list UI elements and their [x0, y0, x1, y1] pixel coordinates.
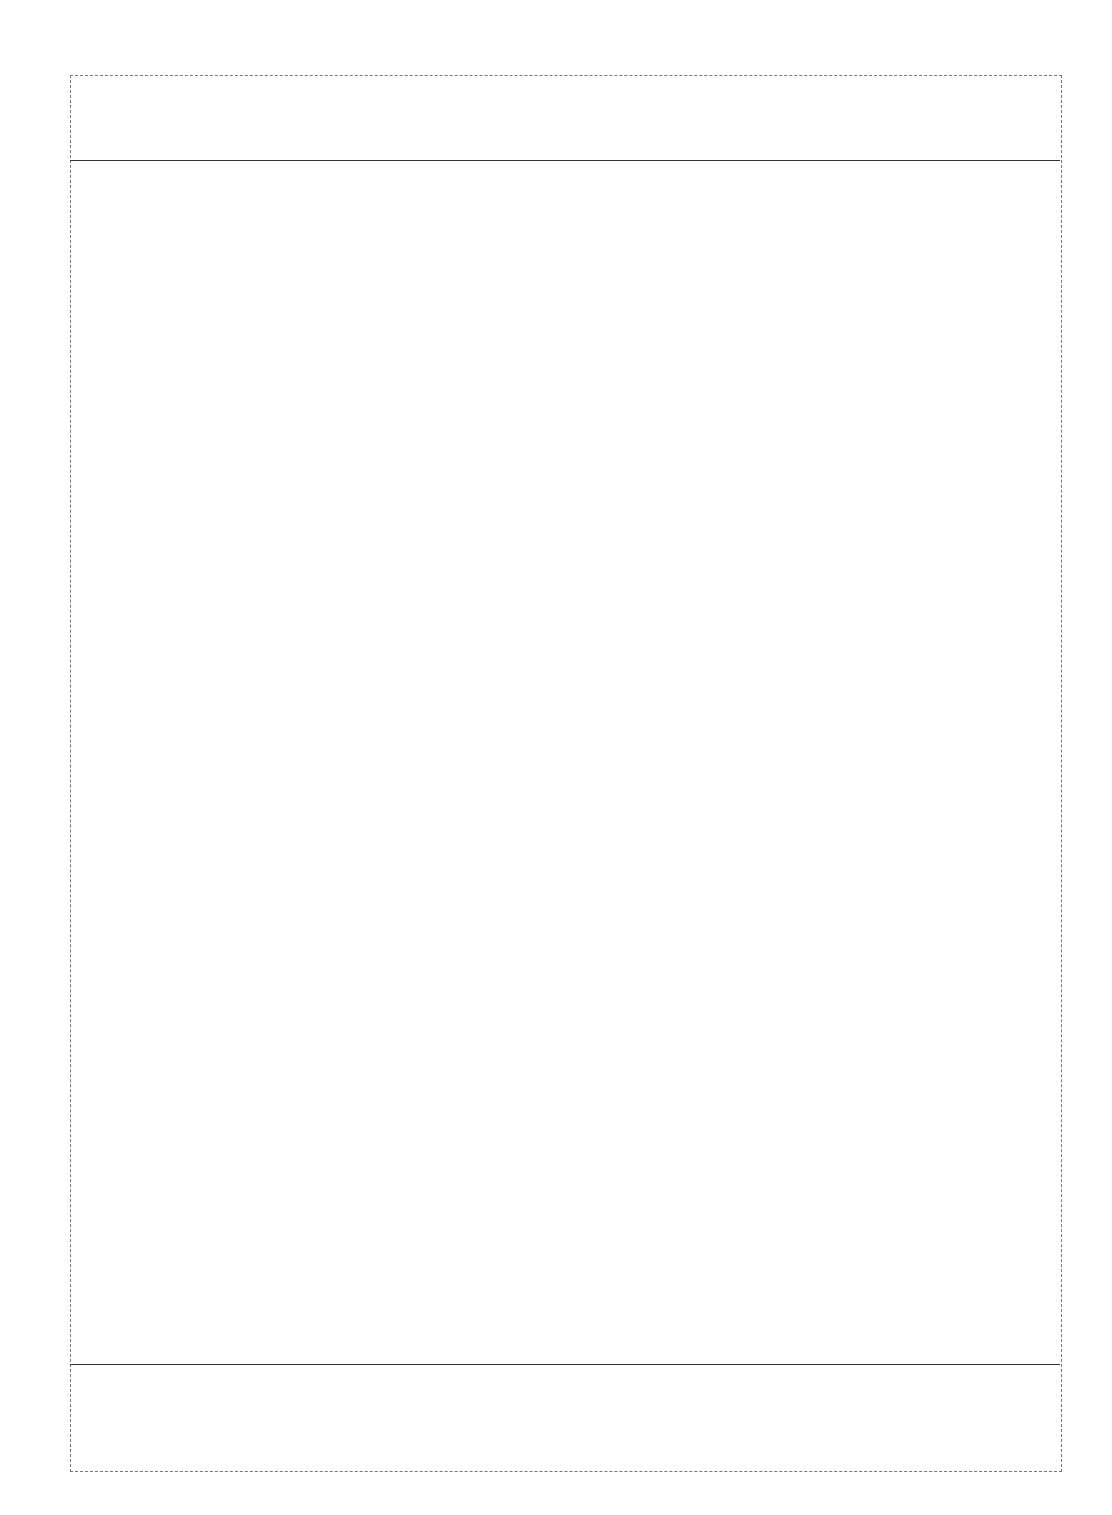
chart-frame: [70, 75, 1062, 1472]
bottom-price-axis: [70, 1364, 1060, 1375]
top-price-axis: [70, 148, 1060, 161]
